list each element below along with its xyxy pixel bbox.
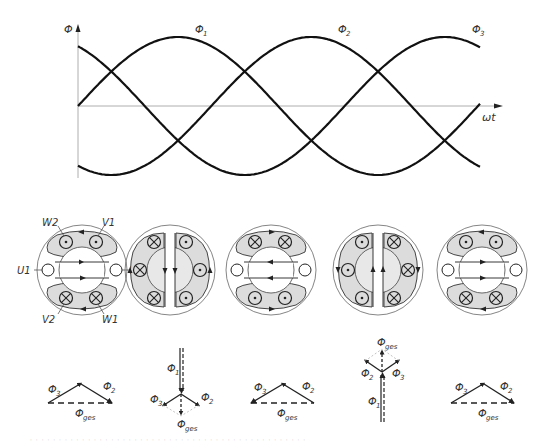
svg-text:1: 1 (203, 30, 207, 38)
svg-text:1: 1 (175, 369, 179, 377)
stator-5 (437, 225, 527, 315)
curve-label-phi3: Φ 3 (472, 23, 484, 38)
phasor-diagram-4: Φges Φ2 Φ3 Φ1 (361, 336, 404, 422)
phasor-diagram-5: Φ3 Φ2 Φges (451, 380, 514, 422)
rotating-field-diagram: Φ ωt Φ 1 Φ 2 Φ 3 (0, 0, 541, 444)
svg-text:ges: ges (385, 343, 398, 351)
svg-text:3: 3 (463, 388, 467, 396)
svg-text:3: 3 (158, 400, 162, 408)
flux-waveform-graph: Φ ωt Φ 1 Φ 2 Φ 3 (64, 23, 503, 178)
y-axis-label: Φ (64, 23, 73, 36)
svg-text:ges: ges (185, 425, 198, 433)
phasor-diagram-1: Φ3 Φ2 Φges (48, 380, 116, 422)
svg-text:2: 2 (209, 398, 214, 406)
svg-text:3: 3 (480, 30, 484, 38)
svg-text:2: 2 (111, 387, 116, 395)
y-axis-arrow-icon (76, 24, 81, 32)
x-axis-arrow-icon (494, 104, 503, 109)
svg-text:2: 2 (369, 374, 374, 382)
figure-caption: · · · · · · · · · · · · · · · · · · · · … (30, 436, 530, 442)
x-axis-label: ωt (482, 111, 496, 124)
stator-4 (333, 225, 423, 315)
svg-text:3: 3 (262, 388, 266, 396)
phasor-diagram-3: Φ3 Φ2 Φges (251, 380, 315, 422)
svg-text:ges: ges (285, 414, 298, 422)
label-w1: W1 (102, 314, 118, 325)
svg-text:2: 2 (310, 387, 315, 395)
label-v1: V1 (102, 217, 115, 228)
stator-3 (226, 225, 316, 315)
svg-text:3: 3 (400, 374, 404, 382)
svg-text:2: 2 (346, 30, 351, 38)
svg-text:ges: ges (486, 414, 499, 422)
svg-text:ges: ges (83, 414, 96, 422)
stator-2 (125, 225, 215, 315)
stator-1: W2 V1 U1 U2 V2 W1 (17, 217, 143, 325)
curve-label-phi1: Φ 1 (195, 23, 207, 38)
svg-text:1: 1 (376, 402, 380, 410)
curve-label-phi2: Φ 2 (338, 23, 351, 38)
svg-text:2: 2 (508, 387, 513, 395)
label-u1: U1 (17, 265, 31, 276)
label-w2: W2 (42, 217, 58, 228)
label-v2: V2 (42, 314, 55, 325)
phasor-diagram-2: Φ1 Φ3 Φ2 Φges (150, 348, 214, 433)
svg-text:3: 3 (56, 390, 60, 398)
